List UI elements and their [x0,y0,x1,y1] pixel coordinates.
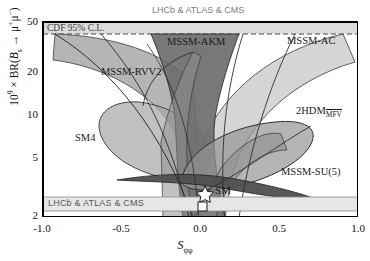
top-annotation: LHCb & ATLAS & CMS [152,5,244,15]
label-sm: SM [215,184,231,196]
label-sm4: SM4 [75,132,95,143]
label-mssm-ac: MSSM-AC [287,35,335,46]
y-axis-label-exponent: 9 [6,91,15,95]
label-mssm-rvv2: MSSM-RVV2 [101,66,161,77]
y-axis-label-arrow: → μ [8,26,20,49]
y-axis-label-B-sub: s [15,49,24,52]
y-axis-label-B: B [8,52,20,59]
plot-svg [43,22,358,217]
x-axis-label-sub: ψφ [184,246,193,255]
label-cdf-band: CDF 95% C.L. [47,23,105,33]
y-axis-label-close: ) [8,7,20,11]
plot-area: CDF 95% C.L. LHCb & ATLAS & CMS MSSM-AKM… [42,21,358,217]
y-tick-50: 50 [2,15,38,27]
label-mssm-su5: MSSM-SU(5) [281,166,341,177]
x-tick-0: 0.0 [176,222,224,234]
label-2hdm-mfv: 2HDMMFV [296,105,342,119]
figure-root: LHCb & ATLAS & CMS 109 × BR(Bs → μ+μ−) 5… [0,0,370,261]
x-tick-05: 0.5 [255,222,303,234]
x-tick-neg1: -1.0 [18,222,66,234]
label-lhcb-band: LHCb & ATLAS & CMS [48,198,144,208]
y-tick-5: 5 [2,151,38,163]
label-2hdm-main: 2HDM [296,105,326,116]
y-tick-20: 20 [2,65,38,77]
sm-square-marker [198,202,207,211]
label-2hdm-sub: MFV [326,110,342,119]
y-tick-10: 10 [2,108,38,120]
x-axis-label: Sψφ [0,238,370,255]
label-mssm-akm: MSSM-AKM [167,36,225,47]
y-tick-2: 2 [2,209,38,221]
y-axis-label-prefix: 10 [8,94,20,106]
x-tick-1: 1.0 [334,222,370,234]
x-tick-neg05: -0.5 [97,222,145,234]
